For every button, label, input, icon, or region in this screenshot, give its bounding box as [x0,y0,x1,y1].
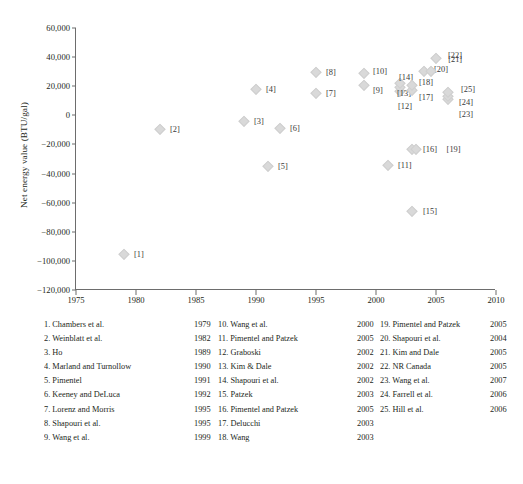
reference-name: 24. Farrell et al. [380,388,490,402]
data-point-label: [5] [278,162,288,171]
reference-item: 8. Shapouri et al.1995 [44,417,234,431]
reference-item: 12. Graboski2002 [218,346,393,360]
reference-name: 7. Lorenz and Morris [44,403,194,417]
x-axis-tick-mark [136,290,137,295]
reference-name: 3. Ho [44,346,194,360]
reference-name: 19. Pimentel and Patzek [380,318,490,332]
y-axis-tick-mark [72,231,77,232]
data-point-label: [18] [419,78,433,87]
reference-year: 2005 [490,346,523,360]
reference-name: 16. Pimentel and Patzek [218,403,357,417]
reference-item: 11. Pimentel and Patzek2005 [218,332,393,346]
reference-name: 2. Weinblatt et al. [44,332,194,346]
x-axis-tick-mark [436,290,437,295]
plot-area: 60,00040,00020,0000−20,000−40,000−60,000… [75,28,495,290]
data-point [239,116,250,127]
reference-item: 21. Kim and Dale2005 [380,346,523,360]
reference-name: 25. Hill et al. [380,403,490,417]
reference-year: 2004 [490,332,523,346]
data-point [119,248,130,259]
reference-year: 2003 [357,431,391,445]
reference-name: 1. Chambers et al. [44,318,194,332]
reference-item: 1. Chambers et al.1979 [44,318,234,332]
data-point [359,80,370,91]
reference-name: 22. NR Canada [380,360,490,374]
reference-item: 22. NR Canada2005 [380,360,523,374]
reference-item: 17. Delucchi2003 [218,417,393,431]
y-axis-tick-mark [72,57,77,58]
data-point-label: [23] [459,110,473,119]
reference-item: 4. Marland and Turnollow1990 [44,360,234,374]
x-axis-tick-mark [196,290,197,295]
reference-year: 2003 [357,417,391,431]
reference-list: 1. Chambers et al.19792. Weinblatt et al… [0,318,523,484]
data-point-label: [8] [326,67,336,76]
x-axis-tick-mark [256,290,257,295]
y-axis-tick-mark [72,86,77,87]
data-point-label: [12] [398,102,412,111]
reference-item: 10. Wang et al.2000 [218,318,393,332]
y-axis-tick-mark [72,28,77,29]
reference-year: 2005 [490,360,523,374]
data-point [431,52,442,63]
reference-item: 19. Pimentel and Patzek2005 [380,318,523,332]
data-point-label: [19] [447,144,461,153]
reference-name: 18. Wang [218,431,357,445]
reference-item: 18. Wang2003 [218,431,393,445]
data-point-label: [22] [448,50,462,59]
figure-container: Net energy value (BTU/gal) 60,00040,0002… [0,0,523,484]
data-point [275,123,286,134]
data-point-label: [17] [419,92,433,101]
reference-name: 11. Pimentel and Patzek [218,332,357,346]
data-point-label: [7] [326,88,336,97]
y-axis-tick-mark [72,260,77,261]
data-point-label: [3] [254,117,264,126]
reference-item: 9. Wang et al.1999 [44,431,234,445]
data-point [311,66,322,77]
x-axis-tick-mark [496,290,497,295]
reference-name: 21. Kim and Dale [380,346,490,360]
reference-name: 13. Kim & Dale [218,360,357,374]
reference-year: 2006 [490,403,523,417]
reference-name: 5. Pimentel [44,374,194,388]
reference-item: 16. Pimentel and Patzek2005 [218,403,393,417]
reference-item: 23. Wang et al.2007 [380,374,523,388]
data-point [155,124,166,135]
reference-year: 2005 [490,318,523,332]
data-point [251,84,262,95]
scatter-plot: Net energy value (BTU/gal) 60,00040,0002… [0,0,523,312]
reference-item: 3. Ho1989 [44,346,234,360]
reference-column-2: 10. Wang et al.200011. Pimentel and Patz… [218,318,393,445]
reference-name: 15. Patzek [218,388,357,402]
data-point-label: [2] [170,125,180,134]
data-point-label: [20] [434,64,448,73]
data-point [263,161,274,172]
data-point [359,68,370,79]
reference-item: 2. Weinblatt et al.1982 [44,332,234,346]
data-point-label: [15] [423,207,437,216]
x-axis-tick-mark [376,290,377,295]
reference-item: 24. Farrell et al.2006 [380,388,523,402]
reference-name: 6. Keeney and DeLuca [44,388,194,402]
reference-name: 8. Shapouri et al. [44,417,194,431]
reference-name: 23. Wang et al. [380,374,490,388]
data-point-label: [1] [134,249,144,258]
reference-name: 9. Wang et al. [44,431,194,445]
data-point-label: [4] [266,85,276,94]
reference-name: 12. Graboski [218,346,357,360]
y-axis-tick-mark [72,115,77,116]
data-point [407,206,418,217]
y-axis-tick-label: −100,000 [37,256,76,266]
reference-item: 20. Shapouri et al.2004 [380,332,523,346]
reference-item: 13. Kim & Dale2002 [218,360,393,374]
y-axis-tick-mark [72,202,77,203]
reference-item: 25. Hill et al.2006 [380,403,523,417]
data-point-label: [6] [290,124,300,133]
x-axis-tick-mark [316,290,317,295]
reference-item: 14. Shapouri et al.2002 [218,374,393,388]
reference-year: 2006 [490,388,523,402]
reference-item: 5. Pimentel1991 [44,374,234,388]
y-axis-tick-mark [72,144,77,145]
data-point [383,159,394,170]
reference-item: 6. Keeney and DeLuca1992 [44,388,234,402]
